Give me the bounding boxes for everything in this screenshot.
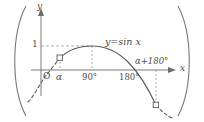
- point-alpha-plus-180-marker: [153, 102, 158, 107]
- x-tick-label-alpha-plus-180: α+180°: [135, 57, 168, 66]
- y-tick-label-1: 1: [32, 40, 38, 49]
- x-tick-label-180: 180°: [119, 73, 139, 82]
- x-axis-arrow: [168, 67, 176, 73]
- point-alpha-marker: [57, 55, 62, 60]
- sine-curve-figure: y x 1 O α 90° 180° α+180° y=sin x: [0, 0, 204, 122]
- x-tick-label-90: 90°: [82, 73, 97, 82]
- x-tick-label-alpha: α: [56, 73, 62, 82]
- curve-equation-label: y=sin x: [105, 37, 141, 47]
- origin-label: O: [43, 72, 50, 81]
- left-parenthesis: [15, 6, 26, 116]
- curve-solid: [60, 46, 156, 105]
- figure-canvas: [0, 0, 204, 122]
- y-axis-label: y: [37, 2, 42, 11]
- x-axis-label: x: [180, 64, 185, 73]
- right-parenthesis: [178, 6, 189, 116]
